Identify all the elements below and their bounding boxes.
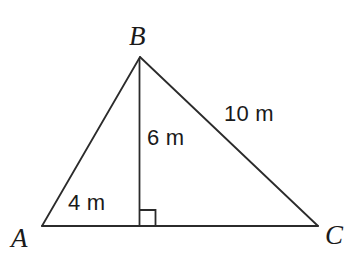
right-angle-icon xyxy=(140,210,156,226)
measure-label-base: 4 m xyxy=(68,192,105,214)
measure-label-hypotenuse: 10 m xyxy=(224,103,274,125)
vertex-label-b: B xyxy=(129,23,146,50)
measure-label-height: 6 m xyxy=(147,127,184,149)
vertex-label-a: A xyxy=(11,225,28,252)
vertex-label-c: C xyxy=(325,222,343,249)
triangle-diagram: A B C 4 m 6 m 10 m xyxy=(0,0,351,255)
